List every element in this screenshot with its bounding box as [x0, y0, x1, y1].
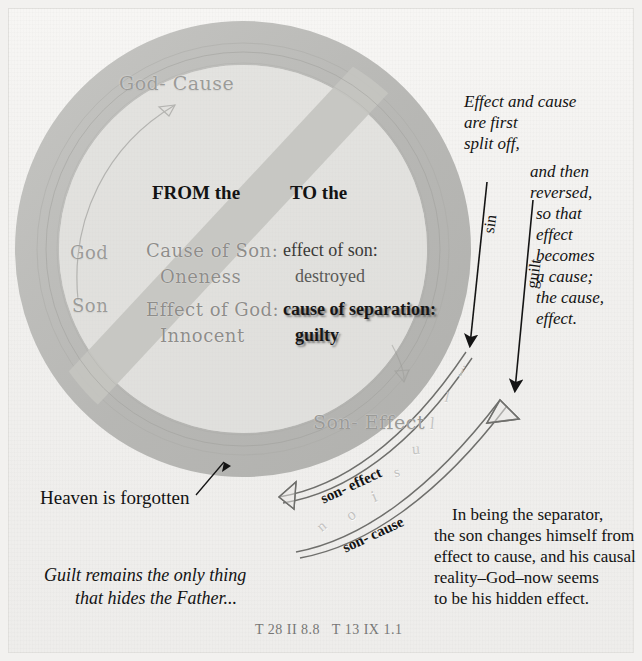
- separator-paragraph-line5: to be his hidden effect.: [434, 589, 589, 609]
- note-right-mid-line6: a cause;: [536, 267, 593, 287]
- guilt-note-line2: that hides the Father...: [75, 588, 237, 609]
- note-right-top-line3: split off,: [464, 134, 520, 154]
- note-right-mid-line8: effect.: [536, 309, 577, 329]
- note-right-mid-line1: and then: [530, 162, 589, 182]
- watermark-letter: u: [411, 440, 420, 459]
- heaven-note: Heaven is forgotten: [40, 487, 190, 509]
- figure-page: God- Cause Son- Effect God Son FROM the …: [0, 0, 642, 661]
- guilt-arrow: [515, 200, 533, 390]
- citation: T 28 II 8.8 T 13 IX 1.1: [255, 622, 402, 638]
- note-right-top-line2: are first: [464, 113, 518, 133]
- row2-from-line1: Effect of God:: [146, 299, 279, 320]
- table-header-to: TO the: [290, 182, 347, 204]
- row1-from-line2: Oneness: [160, 266, 241, 287]
- row2-from-line2: Innocent: [160, 325, 245, 346]
- row1-to-line1: effect of son:: [283, 240, 378, 261]
- separator-paragraph-line1: In being the separator,: [452, 505, 603, 525]
- row1-from-line1: Cause of Son:: [146, 240, 278, 261]
- note-right-top-line1: Effect and cause: [464, 92, 576, 112]
- row-label-god: God: [70, 242, 108, 263]
- row-label-son: Son: [72, 295, 108, 316]
- row2-to-line1: cause of separation:: [283, 299, 436, 320]
- separator-paragraph-line2: the son changes himself from: [434, 526, 634, 546]
- table-header-from: FROM the: [152, 182, 240, 204]
- separator-paragraph-line3: effect to cause, and his causal: [434, 547, 636, 567]
- separator-paragraph-line4: reality–God–now seems: [434, 568, 599, 588]
- note-right-mid-line2: reversed,: [530, 183, 592, 203]
- note-right-mid-line5: becomes: [536, 246, 595, 266]
- arrow-label-sin: sin: [480, 214, 500, 235]
- note-right-mid-line4: effect: [536, 225, 573, 245]
- sin-arrow: [470, 182, 487, 345]
- row2-to-line2: guilty: [295, 325, 339, 346]
- circle-bottom-label: Son- Effect: [313, 411, 425, 433]
- guilt-note-line1: Guilt remains the only thing: [44, 565, 246, 586]
- prohibition-circle: [4, 0, 459, 471]
- note-right-mid-line3: so that: [536, 204, 582, 224]
- circle-top-label: God- Cause: [119, 72, 234, 94]
- note-right-mid-line7: the cause,: [536, 288, 604, 308]
- row1-to-line2: destroyed: [295, 266, 365, 287]
